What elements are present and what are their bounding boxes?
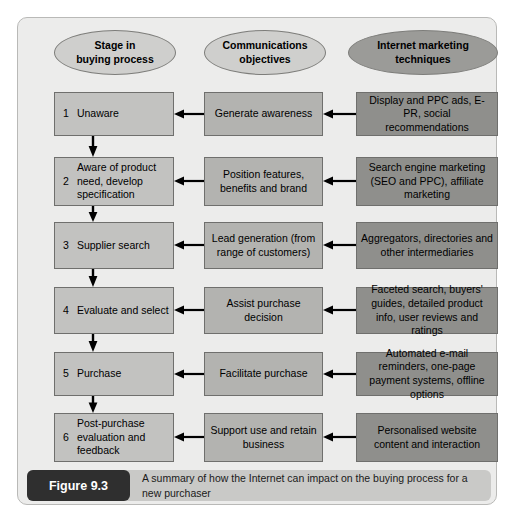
stage-box-5: 5 Purchase: [54, 352, 174, 396]
arrow-left-tech-to-comms-6: [323, 431, 356, 443]
stage-number-2: 2: [63, 175, 74, 189]
arrow-down-stage-2-to-3: [87, 206, 99, 222]
stage-number-4: 4: [63, 304, 74, 318]
stage-label-4: Evaluate and select: [77, 304, 169, 318]
column-header-internet-marketing: Internet marketingtechniques: [348, 30, 498, 75]
column-header-stage-text: Stage inbuying process: [76, 39, 154, 65]
stage-box-3: 3 Supplier search: [54, 222, 174, 269]
communications-box-2: Position features, benefits and brand: [204, 157, 323, 206]
arrow-left-comms-to-stage-3: [174, 239, 204, 251]
column-header-internet-marketing-text: Internet marketingtechniques: [377, 39, 469, 65]
stage-number-1: 1: [63, 107, 74, 121]
stage-box-6: 6 Post-purchase evaluation and feedback: [54, 413, 174, 462]
arrow-down-stage-4-to-5: [87, 334, 99, 352]
column-header-stage: Stage inbuying process: [54, 30, 176, 75]
technique-box-4: Faceted search, buyers' guides, detailed…: [356, 287, 498, 334]
communications-box-6: Support use and retain business: [204, 413, 323, 462]
arrow-left-tech-to-comms-5: [323, 368, 356, 380]
figure-frame: Stage inbuying process Communicationsobj…: [17, 17, 497, 505]
communications-label-3: Lead generation (from range of customers…: [210, 232, 317, 259]
communications-label-1: Generate awareness: [215, 107, 312, 121]
arrow-left-tech-to-comms-3: [323, 239, 356, 251]
stage-number-3: 3: [63, 239, 74, 253]
arrow-down-stage-5-to-6: [87, 396, 99, 413]
stage-box-2: 2 Aware of product need, develop specifi…: [54, 157, 174, 206]
technique-box-3: Aggregators, directories and other inter…: [356, 222, 498, 269]
technique-box-6: Personalised website content and interac…: [356, 413, 498, 462]
communications-label-2: Position features, benefits and brand: [210, 168, 317, 195]
stage-label-3: Supplier search: [77, 239, 150, 253]
stage-label-5: Purchase: [77, 367, 121, 381]
stage-label-6: Post-purchase evaluation and feedback: [77, 417, 173, 458]
communications-box-1: Generate awareness: [204, 92, 323, 136]
arrow-left-comms-to-stage-6: [174, 431, 204, 443]
arrow-left-comms-to-stage-4: [174, 304, 204, 316]
stage-label-2: Aware of product need, develop specifica…: [77, 161, 173, 202]
arrow-left-comms-to-stage-5: [174, 368, 204, 380]
column-header-communications-text: Communicationsobjectives: [222, 39, 307, 65]
technique-box-1: Display and PPC ads, E-PR, social recomm…: [356, 92, 498, 136]
figure-caption-text: A summary of how the Internet can impact…: [130, 470, 491, 501]
stage-label-1: Unaware: [77, 107, 119, 121]
technique-label-3: Aggregators, directories and other inter…: [361, 232, 493, 259]
technique-label-1: Display and PPC ads, E-PR, social recomm…: [361, 94, 493, 135]
arrow-left-comms-to-stage-2: [174, 175, 204, 187]
technique-box-5: Automated e-mail reminders, one-page pay…: [356, 352, 498, 396]
communications-label-5: Facilitate purchase: [219, 367, 307, 381]
communications-label-4: Assist purchase decision: [210, 297, 317, 324]
technique-label-2: Search engine marketing (SEO and PPC), a…: [361, 161, 493, 202]
communications-box-4: Assist purchase decision: [204, 287, 323, 334]
communications-box-3: Lead generation (from range of customers…: [204, 222, 323, 269]
communications-box-5: Facilitate purchase: [204, 352, 323, 396]
arrow-down-stage-3-to-4: [87, 269, 99, 287]
arrow-left-tech-to-comms-2: [323, 175, 356, 187]
figure-caption-bar: Figure 9.3 A summary of how the Internet…: [27, 470, 491, 501]
arrow-left-comms-to-stage-1: [174, 108, 204, 120]
communications-label-6: Support use and retain business: [210, 424, 317, 451]
stage-box-1: 1 Unaware: [54, 92, 174, 136]
arrow-down-stage-1-to-2: [87, 136, 99, 157]
technique-label-6: Personalised website content and interac…: [361, 424, 493, 451]
arrow-left-tech-to-comms-4: [323, 304, 356, 316]
technique-label-4: Faceted search, buyers' guides, detailed…: [361, 283, 493, 338]
arrow-left-tech-to-comms-1: [323, 108, 356, 120]
stage-number-6: 6: [63, 431, 74, 445]
stage-box-4: 4 Evaluate and select: [54, 287, 174, 334]
technique-label-5: Automated e-mail reminders, one-page pay…: [361, 347, 493, 402]
figure-number-badge: Figure 9.3: [27, 470, 130, 501]
column-header-communications: Communicationsobjectives: [204, 30, 326, 75]
technique-box-2: Search engine marketing (SEO and PPC), a…: [356, 157, 498, 206]
stage-number-5: 5: [63, 367, 74, 381]
